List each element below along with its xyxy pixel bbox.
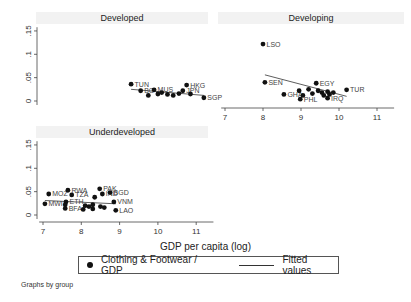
- x-tick-label: 8: [261, 113, 266, 122]
- fit-line-icon: [239, 265, 274, 266]
- data-point: [310, 91, 315, 96]
- data-point: [297, 88, 302, 93]
- data-point: [63, 206, 68, 211]
- legend-scatter-label: Clothing & Footwear / GDP: [101, 254, 219, 276]
- point-label: IRQ: [331, 95, 344, 103]
- panel-developing: Developing7891011LSOSENGHAEGYTURPHLIRQ: [218, 12, 404, 122]
- x-tick-label: 8: [79, 227, 84, 236]
- data-point: [306, 87, 311, 92]
- point-label: EGY: [320, 80, 335, 87]
- y-tick-label: .1: [24, 164, 33, 171]
- data-point: [152, 87, 157, 92]
- point-label: VNM: [117, 198, 133, 205]
- data-point: [138, 88, 143, 93]
- point-label: TZA: [75, 191, 89, 198]
- x-tick-label: 7: [41, 227, 46, 236]
- point-label: SGP: [207, 94, 222, 101]
- y-tick-label: .15: [24, 139, 33, 151]
- data-point: [165, 92, 170, 97]
- x-tick-label: 7: [223, 113, 228, 122]
- panel-title: Developed: [100, 13, 143, 23]
- x-tick-label: 11: [192, 227, 201, 236]
- y-tick-label: 0: [24, 98, 33, 103]
- data-point: [298, 97, 303, 102]
- data-point: [177, 91, 182, 96]
- data-point: [129, 82, 134, 87]
- x-tick-label: 10: [335, 113, 344, 122]
- panel-title: Underdeveloped: [89, 127, 155, 137]
- y-tick-label: .15: [24, 25, 33, 37]
- data-point: [113, 208, 118, 213]
- data-point: [201, 95, 206, 100]
- y-tick-label: 0: [24, 212, 33, 217]
- data-point: [263, 80, 268, 85]
- x-tick-label: 11: [373, 113, 382, 122]
- data-point: [92, 195, 97, 200]
- x-tick-label: 10: [153, 227, 162, 236]
- data-point: [159, 90, 164, 95]
- panel-underdeveloped: Underdeveloped0.05.1.157891011MOZMWIRWAT…: [24, 126, 213, 236]
- point-label: BGD: [114, 189, 129, 196]
- data-point: [102, 205, 107, 210]
- data-point: [90, 207, 95, 212]
- graphs-by-group-note: Graphs by group: [21, 281, 73, 288]
- panel-developed: Developed0.05.1.15TUNBGMUSHKGJPNSGP: [24, 12, 222, 105]
- data-point: [171, 93, 176, 98]
- scatter-marker-icon: [87, 262, 93, 268]
- data-point: [282, 92, 287, 97]
- data-point: [43, 201, 48, 206]
- data-point: [69, 193, 74, 198]
- y-tick-label: .05: [24, 186, 33, 198]
- data-point: [188, 92, 193, 97]
- data-point: [108, 190, 113, 195]
- x-tick-label: 9: [117, 227, 122, 236]
- data-point: [261, 42, 266, 47]
- legend: Clothing & Footwear / GDP Fitted values: [78, 256, 339, 274]
- point-label: BFA: [69, 205, 83, 212]
- data-point: [180, 88, 185, 93]
- point-label: LAO: [119, 207, 134, 214]
- data-point: [344, 87, 349, 92]
- point-label: LSO: [267, 41, 282, 48]
- point-label: MWI: [48, 200, 62, 207]
- y-tick-label: .05: [24, 72, 33, 84]
- data-point: [90, 202, 95, 207]
- data-point: [314, 81, 319, 86]
- data-point: [146, 93, 151, 98]
- x-tick-label: 9: [299, 113, 304, 122]
- data-point: [100, 192, 105, 197]
- data-point: [65, 188, 70, 193]
- legend-fit-label: Fitted values: [282, 254, 338, 276]
- point-label: TUR: [350, 86, 364, 93]
- data-point: [325, 96, 330, 101]
- panel-title: Developing: [288, 13, 333, 23]
- data-point: [97, 186, 102, 191]
- point-label: SEN: [268, 79, 282, 86]
- y-tick-label: .1: [24, 50, 33, 57]
- x-axis-label: GDP per capita (log): [0, 241, 411, 252]
- data-point: [111, 200, 116, 205]
- point-label: PHL: [304, 96, 318, 103]
- data-point: [46, 192, 51, 197]
